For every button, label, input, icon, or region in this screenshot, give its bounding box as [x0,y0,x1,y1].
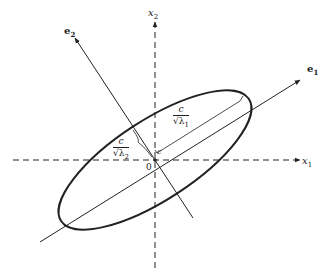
major-half-axis-label: c √λ1 [173,105,189,129]
minor-half-axis-bracket [133,130,152,157]
c-label: c [157,148,161,156]
diagram-canvas [0,0,321,270]
x2-label: x2 [148,8,158,21]
e1-label: e1 [307,64,318,76]
origin-point [153,158,157,162]
origin-label: 0 [146,163,152,172]
major-half-axis-bracket [157,96,243,153]
x1-label: x1 [302,156,312,169]
e1-axis [40,80,300,242]
minor-half-axis-label: c √λ2 [113,137,129,161]
e2-label: e2 [64,26,75,38]
